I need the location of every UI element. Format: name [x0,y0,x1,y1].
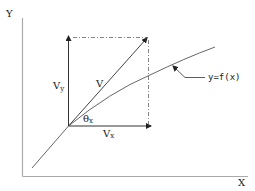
curve-leader-line [173,66,205,78]
vector-diagram: Y X Vy V θx Vx y=f(x) [0,0,255,191]
y-axis-label: Y [5,8,13,19]
vy-label: Vy [52,80,64,93]
v-label: V [95,78,104,89]
curve-label: y=f(x) [208,72,241,82]
x-axis-label: X [238,177,246,188]
curve-y-f-x [32,47,215,168]
angle-label: θx [83,113,93,125]
vx-label: Vx [102,128,114,140]
